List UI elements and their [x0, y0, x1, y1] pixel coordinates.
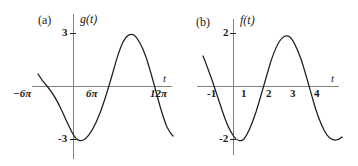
x-tick-label-2-b: 2 [266, 88, 272, 99]
x-tick-label-6pi-a: 6π [86, 88, 98, 99]
y-tick-label-3-a: 3 [62, 27, 68, 38]
x-tick-label-3-b: 3 [290, 88, 296, 99]
y-tick-label-neg3-a: -3 [58, 133, 67, 144]
figure-root: (a) g(t) t 3 -3 −6π 6π 12π (b) f(t) t 2 … [0, 0, 358, 166]
x-tick-label-neg1-b: -1 [207, 88, 216, 99]
x-tick-label-4-b: 4 [314, 88, 320, 99]
y-tick-label-neg2-b: -2 [219, 133, 228, 144]
x-tick-label-1-b: 1 [241, 88, 247, 99]
chart-panel-a: (a) g(t) t 3 -3 −6π 6π 12π [0, 0, 179, 166]
x-axis-name-b: t [331, 73, 334, 84]
chart-panel-b: (b) f(t) t 2 -2 -1 1 2 3 4 [179, 0, 358, 166]
y-tick-label-2-b: 2 [223, 27, 229, 38]
x-tick-label-neg6pi-a: −6π [13, 88, 31, 99]
panel-tag-b: (b) [196, 16, 210, 28]
x-tick-label-12pi-a: 12π [150, 88, 167, 99]
function-label-b: f(t) [240, 14, 255, 26]
x-axis-name-a: t [163, 73, 166, 84]
panel-tag-a: (a) [38, 14, 51, 26]
curve-f-of-t [203, 36, 342, 141]
function-label-a: g(t) [80, 13, 97, 25]
